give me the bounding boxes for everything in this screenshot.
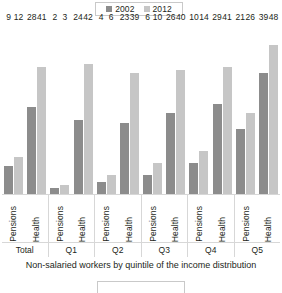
axis-group-label-total: Total — [2, 243, 49, 257]
bar-pair-q5-health: 3948 — [257, 22, 280, 194]
bar-value-label: 42 — [83, 13, 92, 23]
bar-q1-health-2012: 42 — [84, 22, 93, 194]
bar-group-q1: 232442 — [48, 22, 94, 194]
axis-group-q3: PensionsHealth — [142, 195, 189, 243]
axis-group-q5: PensionsHealth — [235, 195, 281, 243]
bar-pair-q1-health: 2442 — [72, 22, 95, 194]
bar-rect: 10 — [153, 163, 162, 194]
axis-cell-total-health: Health — [25, 195, 48, 243]
bar-group-q2: 462339 — [95, 22, 141, 194]
bar-value-label: 14 — [199, 13, 208, 23]
axis-cell-q1-pensions: Pensions — [49, 195, 72, 243]
bar-value-label: 26 — [166, 13, 175, 23]
axis-subcategory-label: Health — [171, 217, 180, 242]
bar-rect: 14 — [199, 151, 208, 194]
bar-rect: 12 — [14, 157, 23, 194]
bar-rect: 3 — [60, 185, 69, 194]
axis-subcategory-label: Pensions — [195, 206, 204, 242]
axis-group-q2: PensionsHealth — [95, 195, 142, 243]
bar-q3-health-2012: 40 — [176, 22, 185, 194]
axis-cell-q5-pensions: Pensions — [235, 195, 258, 243]
axis-subcategory-label: Pensions — [242, 206, 251, 242]
axis-group-label-q5: Q5 — [235, 243, 281, 257]
bar-q5-health-2012: 48 — [269, 22, 278, 194]
axis-subcategory-label: Pensions — [149, 206, 158, 242]
bar-q4-health-2012: 41 — [223, 22, 232, 194]
bar-q1-pensions-2012: 3 — [60, 22, 69, 194]
bar-group-q5: 21263948 — [234, 22, 280, 194]
bar-rect: 39 — [130, 73, 139, 194]
axis-subcategory-label: Health — [218, 217, 227, 242]
bar-pair-q1-pensions: 23 — [48, 22, 71, 194]
axis-cell-q4-pensions: Pensions — [188, 195, 211, 243]
chart-caption: Non-salaried workers by quintile of the … — [0, 261, 282, 271]
bar-value-label: 4 — [99, 13, 104, 23]
bar-value-label: 3 — [63, 13, 68, 23]
axis-group-q4: PensionsHealth — [188, 195, 235, 243]
bar-q5-pensions-2002: 21 — [236, 22, 245, 194]
bar-total-health-2002: 28 — [27, 22, 36, 194]
bar-value-label: 29 — [212, 13, 221, 23]
axis-subcategory-label: Pensions — [9, 206, 18, 242]
bar-pair-q5-pensions: 2126 — [234, 22, 257, 194]
bar-rect: 41 — [223, 67, 232, 194]
bar-pair-q3-health: 2640 — [164, 22, 187, 194]
axis-group-total: PensionsHealth — [2, 195, 49, 243]
bar-pair-q4-health: 2941 — [210, 22, 233, 194]
x-axis-group-band: TotalQ1Q2Q3Q4Q5 — [2, 242, 280, 257]
bar-value-label: 39 — [130, 13, 139, 23]
bar-rect: 48 — [269, 45, 278, 194]
bar-pair-q2-pensions: 46 — [95, 22, 118, 194]
bar-pair-q4-pensions: 1014 — [187, 22, 210, 194]
axis-cell-q3-health: Health — [164, 195, 187, 243]
bar-rect: 21 — [236, 129, 245, 194]
bar-rect: 28 — [27, 107, 36, 194]
bar-value-label: 2 — [53, 13, 58, 23]
bar-value-label: 12 — [14, 13, 23, 23]
bar-rect: 24 — [74, 120, 83, 194]
bar-pair-q3-pensions: 610 — [141, 22, 164, 194]
bar-rect: 26 — [246, 113, 255, 194]
bar-value-label: 41 — [222, 13, 231, 23]
bar-rect: 40 — [176, 70, 185, 194]
bar-pair-q2-health: 2339 — [118, 22, 141, 194]
bar-rect: 42 — [84, 64, 93, 194]
bar-group-q3: 6102640 — [141, 22, 187, 194]
axis-cell-total-pensions: Pensions — [2, 195, 25, 243]
bar-q3-pensions-2002: 6 — [143, 22, 152, 194]
axis-group-q1: PensionsHealth — [49, 195, 96, 243]
bar-value-label: 26 — [245, 13, 254, 23]
bar-value-label: 6 — [145, 13, 150, 23]
axis-cell-q5-health: Health — [257, 195, 280, 243]
bar-total-health-2012: 41 — [37, 22, 46, 194]
bar-groups: 9122841232442462339610264010142941212639… — [2, 22, 280, 194]
axis-group-label-q4: Q4 — [188, 243, 235, 257]
bar-value-label: 28 — [27, 13, 36, 23]
bar-value-label: 39 — [259, 13, 268, 23]
bar-value-label: 10 — [153, 13, 162, 23]
bar-rect: 26 — [166, 113, 175, 194]
bar-rect: 10 — [189, 163, 198, 194]
bar-rect: 23 — [120, 123, 129, 194]
bar-q4-pensions-2002: 10 — [189, 22, 198, 194]
axis-cell-q4-health: Health — [211, 195, 234, 243]
x-axis-subcategory-band: PensionsHealthPensionsHealthPensionsHeal… — [2, 194, 280, 243]
bar-q1-health-2002: 24 — [74, 22, 83, 194]
axis-cell-q2-health: Health — [118, 195, 141, 243]
bar-value-label: 24 — [73, 13, 82, 23]
bar-rect: 9 — [4, 166, 13, 194]
bar-q2-health-2002: 23 — [120, 22, 129, 194]
bar-q3-health-2002: 26 — [166, 22, 175, 194]
bar-value-label: 6 — [109, 13, 114, 23]
axis-group-label-q3: Q3 — [142, 243, 189, 257]
bar-q5-pensions-2012: 26 — [246, 22, 255, 194]
bar-q5-health-2002: 39 — [259, 22, 268, 194]
bar-total-pensions-2002: 9 — [4, 22, 13, 194]
bar-q3-pensions-2012: 10 — [153, 22, 162, 194]
bar-value-label: 21 — [235, 13, 244, 23]
bottom-stub-box — [97, 281, 185, 293]
axis-subcategory-label: Health — [264, 217, 273, 242]
bar-value-label: 23 — [120, 13, 129, 23]
bar-group-q4: 10142941 — [187, 22, 233, 194]
axis-group-label-q2: Q2 — [95, 243, 142, 257]
